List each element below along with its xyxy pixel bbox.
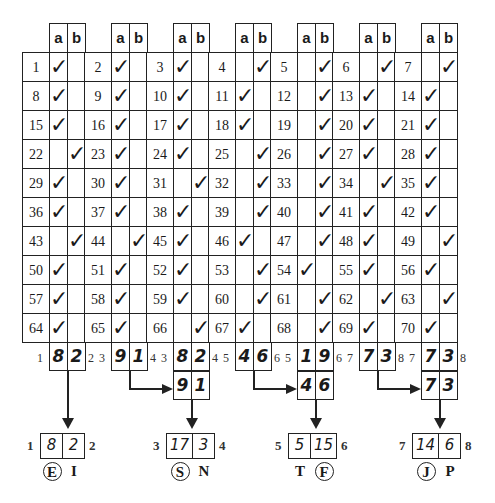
answer-cell-b[interactable] [439,110,458,140]
checkmark-icon[interactable]: ✓ [111,81,130,111]
answer-cell-a[interactable] [297,52,316,82]
column-header-a: a [297,23,316,52]
question-number: 32 [208,168,236,198]
checkmark-icon[interactable]: ✓ [111,139,130,169]
checkmark-icon[interactable]: ✓ [359,81,378,111]
checkmark-icon[interactable]: ✓ [49,255,68,285]
checkmark-icon[interactable]: ✓ [111,110,130,140]
answer-cell-a[interactable] [297,110,316,140]
checkmark-icon[interactable]: ✓ [111,284,130,314]
answer-cell-a[interactable] [235,52,254,82]
question-number: 28 [394,139,422,169]
checkmark-icon[interactable]: ✓ [173,139,192,169]
checkmark-icon[interactable]: ✓ [359,110,378,140]
checkmark-icon[interactable]: ✓ [173,197,192,227]
answer-cell-b[interactable] [439,313,458,343]
checkmark-icon[interactable]: ✓ [111,313,130,343]
checkmark-icon[interactable]: ✓ [49,81,68,111]
checkmark-icon[interactable]: ✓ [439,284,458,314]
question-number: 29 [22,168,50,198]
checkmark-icon[interactable]: ✓ [173,284,192,314]
checkmark-icon[interactable]: ✓ [235,110,254,140]
checkmark-icon[interactable]: ✓ [49,52,68,82]
answer-cell-a[interactable] [235,284,254,314]
answer-cell-a[interactable] [297,168,316,198]
checkmark-icon[interactable]: ✓ [173,226,192,256]
arrow-down-icon [62,418,74,429]
question-number: 39 [208,197,236,227]
answer-cell-a[interactable] [173,168,192,198]
checkmark-icon[interactable]: ✓ [439,52,458,82]
checkmark-icon[interactable]: ✓ [49,110,68,140]
checkmark-icon[interactable]: ✓ [49,313,68,343]
answer-cell-a[interactable] [297,197,316,227]
checkmark-icon[interactable]: ✓ [359,139,378,169]
checkmark-icon[interactable]: ✓ [235,313,254,343]
answer-cell-b[interactable] [439,139,458,169]
answer-cell-a[interactable] [297,313,316,343]
answer-cell-a[interactable] [173,313,192,343]
answer-cell-a[interactable] [235,197,254,227]
answer-cell-a[interactable] [235,139,254,169]
checkmark-icon[interactable]: ✓ [111,197,130,227]
checkmark-icon[interactable]: ✓ [111,255,130,285]
checkmark-icon[interactable]: ✓ [421,255,440,285]
checkmark-icon[interactable]: ✓ [297,255,316,285]
checkmark-icon[interactable]: ✓ [173,110,192,140]
checkmark-icon[interactable]: ✓ [359,226,378,256]
answer-cell-a[interactable] [297,226,316,256]
checkmark-icon[interactable]: ✓ [359,197,378,227]
carried-a: 4 [297,371,316,400]
checkmark-icon[interactable]: ✓ [421,197,440,227]
checkmark-icon[interactable]: ✓ [111,168,130,198]
answer-cell-a[interactable] [49,226,68,256]
checkmark-icon[interactable]: ✓ [235,81,254,111]
checkmark-icon[interactable]: ✓ [111,52,130,82]
question-number: 9 [84,81,112,111]
checkmark-icon[interactable]: ✓ [49,284,68,314]
question-number: 43 [22,226,50,256]
total-right-label: 4 [212,351,218,366]
answer-cell-a[interactable] [359,52,378,82]
answer-cell-a[interactable] [111,226,130,256]
total-b: 3 [439,342,458,371]
checkmark-icon[interactable]: ✓ [439,226,458,256]
answer-cell-a[interactable] [421,226,440,256]
checkmark-icon[interactable]: ✓ [359,313,378,343]
checkmark-icon[interactable]: ✓ [173,52,192,82]
answer-cell-b[interactable] [439,197,458,227]
column-header-b: b [253,23,272,52]
answer-cell-a[interactable] [359,168,378,198]
answer-cell-a[interactable] [49,139,68,169]
checkmark-icon[interactable]: ✓ [421,81,440,111]
question-number: 67 [208,313,236,343]
answer-cell-a[interactable] [235,255,254,285]
answer-cell-a[interactable] [421,284,440,314]
total-a: 8 [49,342,68,371]
result-b: 3 [192,433,215,459]
answer-cell-b[interactable] [439,168,458,198]
checkmark-icon[interactable]: ✓ [173,255,192,285]
answer-cell-a[interactable] [359,284,378,314]
checkmark-icon[interactable]: ✓ [49,168,68,198]
checkmark-icon[interactable]: ✓ [421,139,440,169]
checkmark-icon[interactable]: ✓ [359,255,378,285]
answer-cell-b[interactable] [439,255,458,285]
answer-cell-a[interactable] [235,168,254,198]
checkmark-icon[interactable]: ✓ [173,81,192,111]
answer-cell-b[interactable] [439,81,458,111]
answer-cell-a[interactable] [297,284,316,314]
checkmark-icon[interactable]: ✓ [421,313,440,343]
answer-cell-a[interactable] [297,139,316,169]
arrow-right-icon [410,384,421,394]
arrow-right-icon [162,384,173,394]
checkmark-icon[interactable]: ✓ [421,110,440,140]
result-a: 14 [412,433,439,459]
checkmark-icon[interactable]: ✓ [235,226,254,256]
checkmark-icon[interactable]: ✓ [421,168,440,198]
answer-cell-a[interactable] [297,81,316,111]
question-number: 11 [208,81,236,111]
answer-cell-a[interactable] [421,52,440,82]
checkmark-icon[interactable]: ✓ [49,197,68,227]
question-number: 68 [270,313,298,343]
